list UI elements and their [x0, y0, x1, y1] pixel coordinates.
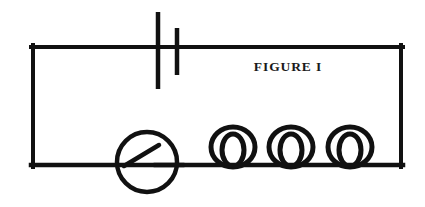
figure-canvas: FIGURE I	[0, 0, 425, 207]
coil-2	[269, 127, 313, 167]
circuit-diagram	[0, 0, 425, 207]
coil-1	[211, 127, 255, 167]
coil-inner-loop-icon	[280, 134, 302, 166]
coil-inner-loop-icon	[339, 134, 361, 166]
coil-group	[211, 127, 372, 167]
meter-circle-icon	[117, 132, 177, 192]
coil-inner-loop-icon	[222, 134, 244, 166]
meter-symbol	[117, 132, 184, 192]
coil-3	[328, 127, 372, 167]
figure-caption: FIGURE I	[228, 60, 348, 75]
battery-symbol	[158, 12, 177, 89]
